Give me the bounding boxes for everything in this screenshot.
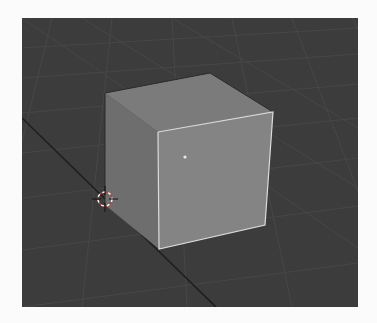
object-origin-dot[interactable] <box>183 155 186 158</box>
3d-viewport[interactable] <box>22 18 358 307</box>
viewport-canvas[interactable] <box>22 18 358 307</box>
cube-object[interactable] <box>105 73 273 249</box>
cube-face-front <box>158 112 273 249</box>
